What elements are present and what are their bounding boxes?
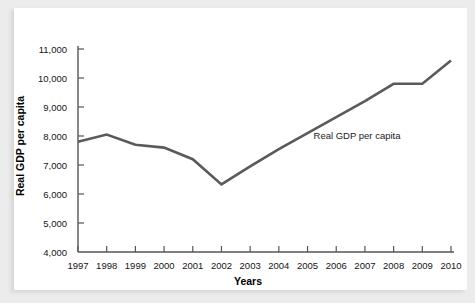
x-tick-label: 2001: [182, 260, 203, 271]
x-tick-label: 2008: [383, 260, 404, 271]
x-tick-label: 2007: [354, 260, 375, 271]
y-tick-label: 5,000: [43, 218, 67, 229]
x-tick-label: 2005: [297, 260, 318, 271]
x-tick-label: 2002: [211, 260, 232, 271]
y-axis-tick-marks: [78, 49, 84, 223]
y-tick-label: 8,000: [43, 131, 67, 142]
x-tick-label: 2009: [412, 260, 433, 271]
series-annotation: Real GDP per capita: [314, 130, 402, 141]
x-tick-label: 1999: [125, 260, 146, 271]
y-axis-tick-labels: 4,0005,0006,0007,0008,0009,00010,00011,0…: [38, 44, 67, 258]
x-tick-label: 2000: [154, 260, 175, 271]
x-axis-tick-labels: 1997199819992000200120022003200420052006…: [67, 260, 461, 271]
y-axis-title: Real GDP per capita: [14, 96, 26, 196]
y-tick-label: 9,000: [43, 102, 67, 113]
y-tick-label: 11,000: [39, 44, 67, 55]
x-tick-label: 2006: [326, 260, 347, 271]
x-axis-tick-marks: [78, 246, 451, 252]
y-tick-label: 4,000: [43, 247, 67, 258]
x-tick-label: 1998: [96, 260, 117, 271]
y-tick-label: 6,000: [43, 189, 67, 200]
data-series-line: [78, 61, 451, 185]
x-tick-label: 2003: [240, 260, 261, 271]
x-tick-label: 2004: [268, 260, 289, 271]
y-tick-label: 7,000: [43, 160, 67, 171]
y-tick-label: 10,000: [38, 73, 67, 84]
x-tick-label: 2010: [440, 260, 461, 271]
figure-root: 4,0005,0006,0007,0008,0009,00010,00011,0…: [0, 0, 475, 303]
x-axis-title: Years: [234, 275, 262, 287]
line-chart: 4,0005,0006,0007,0008,0009,00010,00011,0…: [0, 0, 475, 303]
x-tick-label: 1997: [67, 260, 88, 271]
